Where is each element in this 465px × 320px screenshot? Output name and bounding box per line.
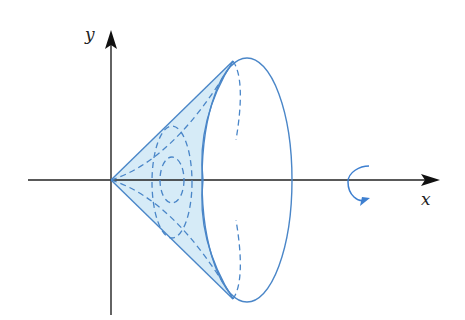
rotate-arrow-icon xyxy=(348,166,370,206)
x-axis xyxy=(28,174,440,186)
solid-of-revolution-diagram: y x xyxy=(0,0,465,320)
y-axis-label: y xyxy=(84,24,95,44)
y-axis xyxy=(105,30,117,315)
x-axis-label: x xyxy=(421,189,431,209)
